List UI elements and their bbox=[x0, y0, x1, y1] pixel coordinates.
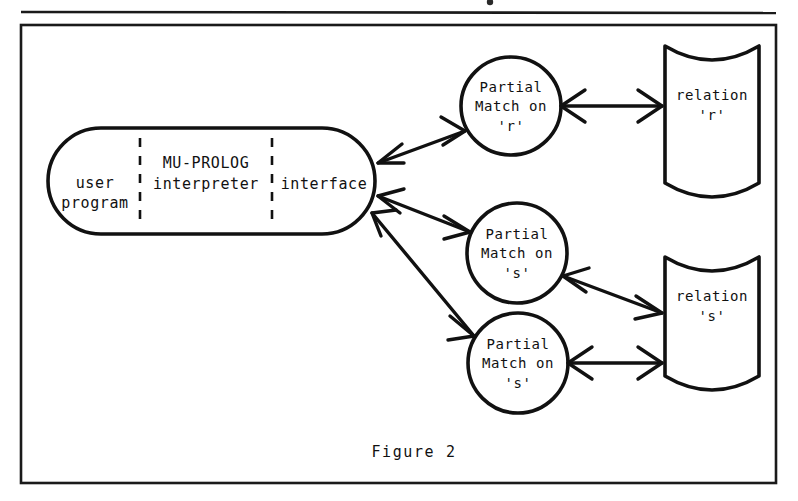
scan-speck bbox=[487, 0, 493, 5]
connector-line bbox=[372, 213, 474, 336]
figure-page: user program MU-PROLOG interpreter inter… bbox=[0, 0, 798, 501]
mu-prolog-system-box: user program MU-PROLOG interpreter inter… bbox=[48, 128, 375, 234]
relation-r-store: relation 'r' bbox=[665, 46, 759, 197]
connector-line bbox=[378, 131, 465, 163]
connector-partial-match-s-lower-relation-s bbox=[568, 347, 662, 379]
partial-match-s-upper-line-3: 's' bbox=[503, 265, 530, 281]
partial-match-s-upper-node: Partial Match on 's' bbox=[467, 203, 567, 303]
partial-match-r-line-3: 'r' bbox=[497, 118, 524, 134]
partial-match-s-lower-line-3: 's' bbox=[504, 375, 531, 391]
connector-partial-match-s-upper-relation-s bbox=[563, 268, 662, 319]
connector-interface-partial-match-s-upper bbox=[378, 189, 470, 239]
relation-s-line-1: relation bbox=[676, 288, 748, 304]
relation-s-line-2: 's' bbox=[698, 308, 725, 324]
connector-line bbox=[563, 276, 662, 313]
partial-match-s-lower-node: Partial Match on 's' bbox=[468, 313, 568, 413]
connector-interface-partial-match-s-lower bbox=[372, 210, 474, 340]
user-program-line-2: program bbox=[61, 194, 128, 212]
arrow-head-left bbox=[372, 210, 396, 236]
figure-frame bbox=[21, 25, 776, 483]
partial-match-s-upper-line-1: Partial bbox=[485, 226, 548, 242]
page-rule-top bbox=[21, 12, 776, 13]
relation-r-line-1: relation bbox=[676, 87, 748, 103]
interpreter-line-1: MU-PROLOG bbox=[163, 154, 250, 172]
partial-match-r-line-1: Partial bbox=[479, 79, 542, 95]
connector-line bbox=[378, 196, 470, 232]
partial-match-r-line-2: Match on bbox=[475, 98, 547, 114]
partial-match-r-node: Partial Match on 'r' bbox=[461, 57, 561, 155]
relation-r-line-2: 'r' bbox=[698, 107, 725, 123]
connector-interface-partial-match-r bbox=[378, 117, 465, 163]
compartment-interface: interface bbox=[281, 175, 368, 193]
partial-match-s-lower-line-1: Partial bbox=[486, 336, 549, 352]
interpreter-line-2: interpreter bbox=[153, 175, 259, 193]
partial-match-s-lower-line-2: Match on bbox=[482, 355, 554, 371]
figure-caption: Figure 2 bbox=[371, 443, 456, 461]
figure-2-diagram: user program MU-PROLOG interpreter inter… bbox=[0, 0, 798, 501]
connector-partial-match-r-relation-r bbox=[561, 90, 662, 122]
relation-s-store: relation 's' bbox=[665, 257, 759, 390]
partial-match-s-upper-line-2: Match on bbox=[481, 245, 553, 261]
user-program-line-1: user bbox=[76, 174, 115, 192]
interface-label: interface bbox=[281, 175, 368, 193]
